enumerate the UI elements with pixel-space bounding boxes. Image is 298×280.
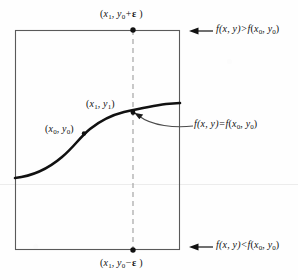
leader-line-equal [139,116,193,127]
arrow-head-greater [189,28,199,35]
paren-close: ) [276,239,280,250]
annotation-less-than: f(x, y)<f(x0, y0) [216,240,279,252]
label-point-x0y0: (x0, y0) [45,124,74,136]
label-bottom-point: (x1, y0−ε ) [100,258,143,270]
diagram-canvas [0,0,298,280]
point-x0y0-marker [82,131,86,135]
paren-close: ) [254,118,258,129]
annotation-greater-than: f(x, y)>f(x0, y0) [216,24,279,36]
paren-close: ) [276,23,280,34]
func-args: (x, y) [197,118,219,129]
domain-box [16,31,180,250]
figure-container: (x1, y0+ε ) (x1, y0−ε ) (x1, y1) (x0, y0… [0,0,298,280]
func-args: (x, y) [219,23,241,34]
label-top-point: (x1, y0+ε ) [100,9,143,21]
paren-close: ) [137,257,143,268]
relation-less: < [241,239,248,250]
label-point-x1y1: (x1, y1) [86,99,115,111]
level-curve [15,103,180,178]
annotation-equal: f(x, y)=f(x0, y0) [194,119,257,131]
paren-close: ) [137,8,143,19]
point-x1y1-marker [131,110,136,115]
point-bottom-marker [130,247,135,252]
paren-close: ) [70,123,74,134]
arrow-head-less [189,244,199,251]
paren-close: ) [111,98,115,109]
relation-greater: > [241,23,248,34]
point-top-marker [130,27,135,32]
func-args: (x, y) [219,239,241,250]
relation-equal: = [219,118,226,129]
